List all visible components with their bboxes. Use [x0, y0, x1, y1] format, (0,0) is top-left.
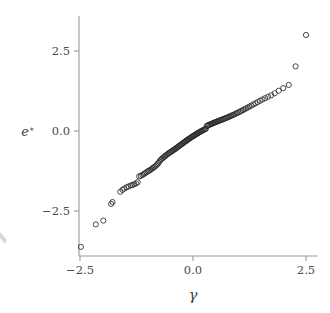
x-axis-title: γ: [189, 287, 198, 303]
x-tick-label: −2.5: [66, 263, 94, 277]
y-axis-title-superscript: ∗: [29, 124, 35, 134]
chart-canvas: 2.50.0−2.5 −2.50.02.5 γ e∗: [0, 0, 330, 313]
x-tick-label: 0.0: [184, 263, 202, 277]
qq-plot-figure: 2.50.0−2.5 −2.50.02.5 γ e∗: [0, 0, 330, 313]
y-tick-label: 0.0: [52, 124, 70, 138]
x-tick-label: 2.5: [297, 263, 315, 277]
y-tick-label: 2.5: [52, 44, 70, 58]
y-tick-label: −2.5: [42, 204, 70, 218]
